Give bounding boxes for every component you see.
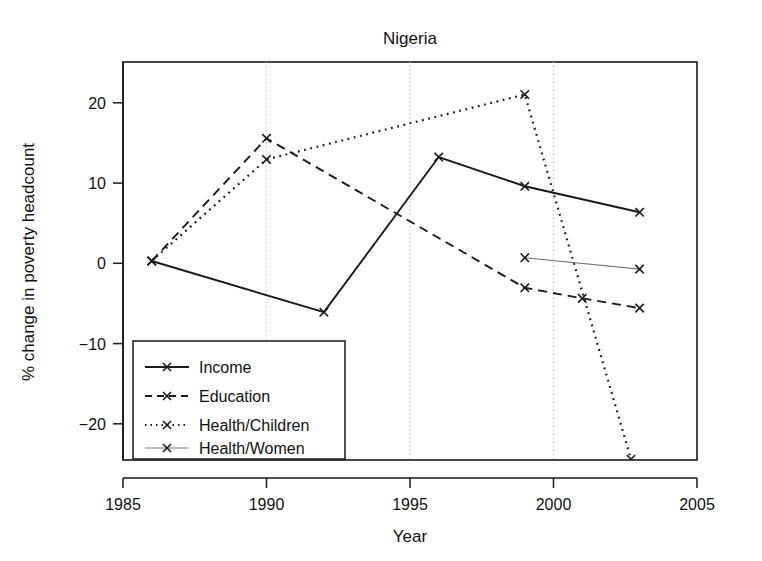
x-axis-title: Year xyxy=(393,527,428,546)
y-axis: 20 10 0 −10 −20 xyxy=(79,62,123,460)
y-tick-label-minus10: −10 xyxy=(79,336,106,353)
series-line xyxy=(525,258,640,269)
legend-label-health-women: Health/Women xyxy=(199,440,305,457)
x-axis: 1985 1990 1995 2000 2005 xyxy=(105,478,715,513)
x-tick-label-1985: 1985 xyxy=(105,496,141,513)
legend: Income Education Health/Children Health/… xyxy=(133,341,345,459)
y-tick-label-10: 10 xyxy=(88,175,106,192)
series-education xyxy=(148,134,644,312)
series-income xyxy=(148,153,644,317)
y-tick-label-0: 0 xyxy=(97,255,106,272)
x-tick-label-1995: 1995 xyxy=(392,496,428,513)
chart-title: Nigeria xyxy=(383,29,437,48)
data-point-marker xyxy=(635,304,643,312)
legend-label-health-children: Health/Children xyxy=(199,417,309,434)
data-point-marker xyxy=(627,455,635,463)
x-tick-label-2000: 2000 xyxy=(536,496,572,513)
y-tick-label-minus20: −20 xyxy=(79,416,106,433)
data-point-marker xyxy=(262,134,270,142)
series-health-women xyxy=(521,254,644,274)
y-axis-title: % change in poverty headcount xyxy=(19,143,38,381)
x-tick-label-2005: 2005 xyxy=(679,496,715,513)
line-chart-svg: Nigeria 20 10 0 −10 −20 xyxy=(0,0,762,561)
x-tick-label-1990: 1990 xyxy=(249,496,285,513)
legend-label-education: Education xyxy=(199,388,270,405)
y-tick-label-20: 20 xyxy=(88,95,106,112)
chart-figure: Nigeria 20 10 0 −10 −20 xyxy=(0,0,762,561)
series-line xyxy=(152,157,640,312)
legend-label-income: Income xyxy=(199,359,252,376)
